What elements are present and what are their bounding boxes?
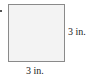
right-side-length-label: 3 in.: [68, 27, 86, 37]
bottom-side-length-label: 3 in.: [26, 66, 44, 76]
bullet-marker: [0, 10, 2, 12]
square-shape: [8, 4, 65, 62]
